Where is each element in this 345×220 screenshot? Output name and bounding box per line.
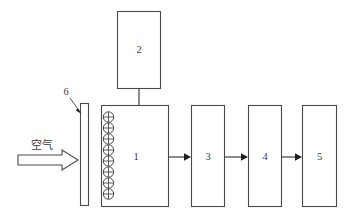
inlet-stream-label: 空气 [31,138,53,152]
heating-coil-element [103,178,113,188]
arrowhead-four-to-five [295,153,302,161]
reactor-box-1-label: 1 [133,151,138,162]
heating-coil-element [103,123,113,133]
arrowhead-three-to-four [241,153,248,161]
heating-coil-element [103,167,113,177]
heating-coil-element [103,189,113,199]
reference-label-6: 6 [63,86,68,97]
heating-coil-element [103,112,113,122]
unit-box-5-label: 5 [317,151,322,162]
filter-bar-6[interactable] [81,104,89,206]
heating-coil-element [103,156,113,166]
unit-box-4-label: 4 [262,151,268,162]
inlet-block-arrow [18,150,78,170]
heating-coil-element [103,134,113,144]
process-flow-diagram: 2 6 空气 1 [0,0,345,220]
vessel-box-2-label: 2 [136,44,141,55]
heating-coil-element [103,145,113,155]
arrowhead-reactor-to-three [184,153,191,161]
unit-box-3-label: 3 [205,151,210,162]
flow-diagram-canvas: 2 6 空气 1 [0,0,345,220]
